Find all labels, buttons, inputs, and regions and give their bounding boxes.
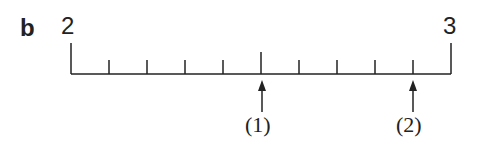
arrow-label-1: (1) — [245, 112, 271, 138]
arrow-up-icon — [258, 80, 266, 91]
arrow-label-2: (2) — [396, 112, 422, 138]
arrow-up-icon — [409, 80, 417, 91]
